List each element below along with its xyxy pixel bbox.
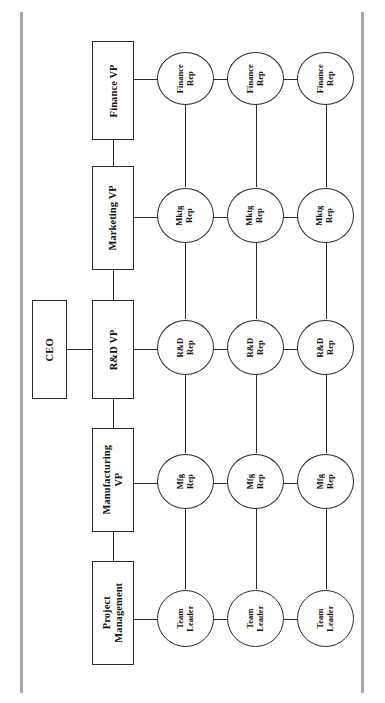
node-rnd-rep-1-label: R&D Rep xyxy=(176,338,195,358)
connector-col2-finance-mktg xyxy=(256,105,257,187)
node-finance-rep-3[interactable]: Finance Rep xyxy=(297,52,354,105)
connector-marketing-vp-to-rep xyxy=(133,217,158,218)
connector-col1-finance-mktg xyxy=(185,105,186,187)
node-mktg-rep-2[interactable]: Mktg Rep xyxy=(227,188,284,243)
connector-col3-finance-mktg xyxy=(326,105,327,187)
node-finance-rep-2[interactable]: Finance Rep xyxy=(227,52,284,105)
connector-col1-mfg-team xyxy=(185,509,186,589)
node-marketing-vp-label: Marketing VP xyxy=(107,185,119,250)
connector-rnd-vp-to-rep xyxy=(133,349,158,350)
node-team-leader-2[interactable]: Team Leader xyxy=(227,590,284,647)
page-edge-rule-right xyxy=(361,12,364,693)
node-team-leader-1-label: Team Leader xyxy=(176,605,195,631)
connector-col1-rnd-mfg xyxy=(185,375,186,453)
connector-project-management-to-leader xyxy=(133,619,158,620)
node-manufacturing-vp-label: Manufacturing VP xyxy=(101,445,125,515)
node-project-management[interactable]: Project Management xyxy=(92,561,134,665)
node-finance-vp[interactable]: Finance VP xyxy=(92,41,134,140)
node-rnd-rep-1[interactable]: R&D Rep xyxy=(157,320,214,375)
node-mfg-rep-1-label: Mfg Rep xyxy=(176,474,195,489)
connector-ceo-to-rnd xyxy=(66,349,93,350)
node-mktg-rep-1-label: Mktg Rep xyxy=(176,205,195,225)
node-mfg-rep-2[interactable]: Mfg Rep xyxy=(227,454,284,509)
node-team-leader-2-label: Team Leader xyxy=(246,605,265,631)
node-finance-rep-1-label: Finance Rep xyxy=(176,64,195,93)
node-mfg-rep-3-label: Mfg Rep xyxy=(316,474,335,489)
connector-col3-rnd-mfg xyxy=(326,375,327,453)
connector-col2-mktg-rnd xyxy=(256,243,257,319)
node-rnd-rep-2[interactable]: R&D Rep xyxy=(227,320,284,375)
node-finance-rep-3-label: Finance Rep xyxy=(316,64,335,93)
node-mktg-rep-3-label: Mktg Rep xyxy=(316,205,335,225)
node-rnd-rep-3-label: R&D Rep xyxy=(316,338,335,358)
connector-finance-vp-to-rep xyxy=(133,79,158,80)
node-rnd-rep-2-label: R&D Rep xyxy=(246,338,265,358)
connector-col3-mktg-rnd xyxy=(326,243,327,319)
node-mfg-rep-2-label: Mfg Rep xyxy=(246,474,265,489)
page-edge-rule-left xyxy=(20,12,23,693)
node-ceo[interactable]: CEO xyxy=(32,300,67,399)
node-finance-vp-label: Finance VP xyxy=(107,64,119,117)
node-team-leader-1[interactable]: Team Leader xyxy=(157,590,214,647)
node-project-management-label: Project Management xyxy=(101,583,125,643)
node-marketing-vp[interactable]: Marketing VP xyxy=(92,166,134,270)
connector-col2-mfg-team xyxy=(256,509,257,589)
node-rnd-vp[interactable]: R&D VP xyxy=(92,300,134,399)
node-finance-rep-1[interactable]: Finance Rep xyxy=(157,52,214,105)
node-manufacturing-vp[interactable]: Manufacturing VP xyxy=(92,428,134,532)
node-mfg-rep-3[interactable]: Mfg Rep xyxy=(297,454,354,509)
connector-col1-mktg-rnd xyxy=(185,243,186,319)
node-rnd-vp-label: R&D VP xyxy=(107,329,119,370)
connector-manufacturing-vp-to-rep xyxy=(133,483,158,484)
node-mktg-rep-1[interactable]: Mktg Rep xyxy=(157,188,214,243)
node-finance-rep-2-label: Finance Rep xyxy=(246,64,265,93)
node-team-leader-3-label: Team Leader xyxy=(316,605,335,631)
node-ceo-label: CEO xyxy=(44,338,56,361)
diagram-canvas: CEO Finance VP Marketing VP R&D VP Manuf… xyxy=(0,0,385,703)
node-rnd-rep-3[interactable]: R&D Rep xyxy=(297,320,354,375)
node-mktg-rep-3[interactable]: Mktg Rep xyxy=(297,188,354,243)
connector-col3-mfg-team xyxy=(326,509,327,589)
connector-col2-rnd-mfg xyxy=(256,375,257,453)
node-mfg-rep-1[interactable]: Mfg Rep xyxy=(157,454,214,509)
node-mktg-rep-2-label: Mktg Rep xyxy=(246,205,265,225)
node-team-leader-3[interactable]: Team Leader xyxy=(297,590,354,647)
